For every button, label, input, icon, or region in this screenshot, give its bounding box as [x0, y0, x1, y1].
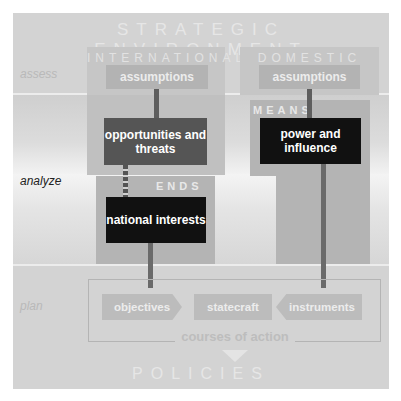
ends-label: ENDS: [156, 180, 203, 192]
down-arrow-icon: [222, 350, 248, 362]
arrow-assumptions-to-power: [307, 89, 312, 119]
objectives-box: objectives: [102, 294, 182, 320]
statecraft-box: statecraft: [194, 294, 272, 320]
power-and-influence-box: power and influence: [260, 118, 361, 164]
policies-label: POLICIES: [13, 365, 389, 383]
domestic-heading: DOMESTIC: [240, 51, 379, 65]
row-label-assess: assess: [20, 67, 57, 81]
row-label-plan: plan: [20, 299, 43, 313]
international-heading: INTERNATIONAL: [87, 51, 225, 65]
instruments-box: instruments: [276, 294, 362, 320]
dashed-arrow-opportunities-to-interests: [123, 165, 128, 197]
arrow-power-to-instruments: [321, 164, 326, 288]
courses-of-action-label: courses of action: [175, 329, 295, 344]
arrow-assumptions-to-opportunities: [154, 89, 159, 119]
row-label-analyze: analyze: [20, 174, 61, 188]
means-label: MEANS: [253, 104, 313, 116]
opportunities-and-threats-box: opportunities and threats: [104, 118, 207, 165]
national-interests-box: national interests: [106, 197, 206, 243]
international-assumptions-box: assumptions: [106, 65, 208, 89]
domestic-assumptions-box: assumptions: [259, 65, 360, 89]
